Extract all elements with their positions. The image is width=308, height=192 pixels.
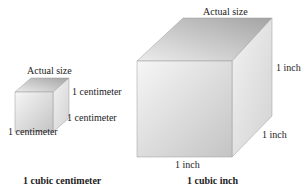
large-cube-depth-label: 1 inch xyxy=(262,130,287,140)
large-cube xyxy=(137,18,272,157)
small-cube xyxy=(15,78,69,132)
large-cube-actual-size-label: Actual size xyxy=(203,7,248,17)
cubes-drawing xyxy=(0,0,308,192)
small-cube-height-label: 1 centimeter xyxy=(72,87,122,97)
small-cube-width-label: 1 centimeter xyxy=(8,127,58,137)
large-cube-height-label: 1 inch xyxy=(276,63,301,73)
small-cube-caption: 1 cubic centimeter xyxy=(23,176,101,186)
small-cube-actual-size-label: Actual size xyxy=(27,66,72,76)
small-cube-depth-label: 1 centimeter xyxy=(67,113,117,123)
large-cube-caption: 1 cubic inch xyxy=(187,176,238,186)
cube-comparison-diagram: Actual size 1 centimeter 1 centimeter 1 … xyxy=(0,0,308,192)
large-cube-width-label: 1 inch xyxy=(175,160,200,170)
